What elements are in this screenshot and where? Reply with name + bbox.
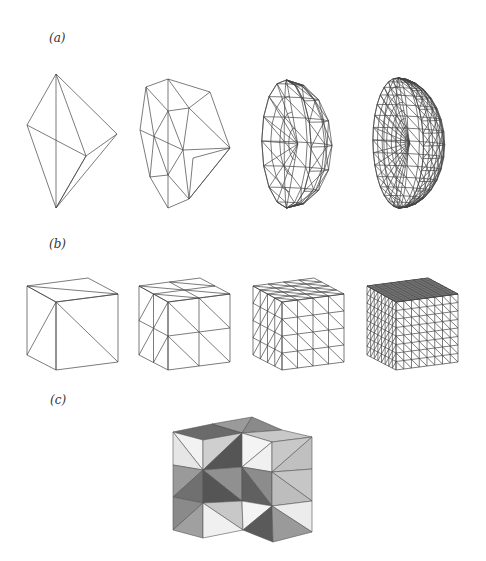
panel-b-cube-level-0 <box>27 278 118 370</box>
panel-a-mesh-level-3 <box>373 78 445 208</box>
panel-a-mesh-level-1 <box>140 79 230 208</box>
panel-a-mesh-level-2 <box>262 80 332 208</box>
panel-b-cube-level-2 <box>253 278 344 370</box>
panel-b-cube-level-1 <box>139 278 230 370</box>
panel-b-cube-level-3 <box>367 278 458 370</box>
panel-a-mesh-level-0 <box>27 74 117 208</box>
figure-canvas <box>0 0 486 561</box>
panel-c-shaded-block <box>173 417 312 542</box>
